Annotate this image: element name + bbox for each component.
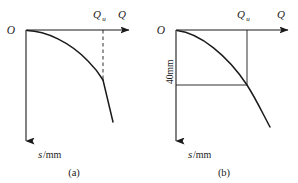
panel-a-y-axis-label-s: s [38,148,42,160]
panel-a-x-axis-label: Q [118,8,126,20]
panel-b-y-axis-label: s /mm [188,148,212,160]
panel-b-qu-label-subscript: u [246,15,250,23]
panel-b-y-axis-label-s: s [188,148,192,160]
panel-a-qu-label-subscript: u [102,15,106,23]
panel-b-caption: (b) [218,167,231,179]
figure-load-settlement-curves: O Q Q u s /mm (a) O Q [0,0,298,183]
panel-a-caption: (a) [68,167,80,179]
panel-a-y-axis-label: s /mm [38,148,62,160]
panel-b-x-axis-label: Q [277,8,285,20]
panel-b-qu-label-q: Q [237,8,245,20]
panel-a-origin-label: O [7,24,16,36]
panel-b-origin-label: O [157,24,166,36]
panel-a-qu-label-q: Q [93,8,101,20]
panel-b-y-axis-label-unit: /mm [193,149,212,160]
panel-b-settlement-label: 40mm [165,59,175,84]
panel-a-y-axis-label-unit: /mm [43,149,62,160]
